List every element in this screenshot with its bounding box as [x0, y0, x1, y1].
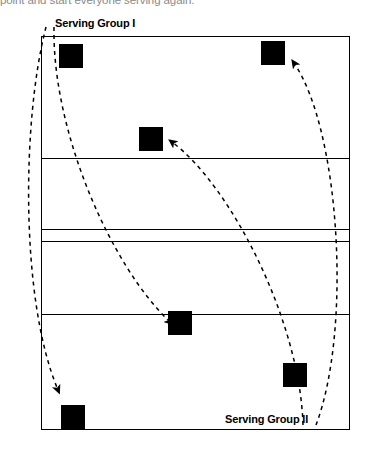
player-top-right — [261, 41, 285, 65]
player-upper-middle — [139, 127, 163, 151]
caption-text: point and start everyone serving again. — [0, 0, 300, 9]
court-line-2 — [42, 229, 349, 230]
player-bottom-left — [61, 405, 85, 429]
player-top-left — [59, 44, 83, 68]
court-line-1 — [42, 158, 349, 159]
player-lower-middle — [168, 311, 192, 335]
court-line-4 — [42, 314, 349, 315]
court-line-3 — [42, 241, 349, 242]
truncated-caption: point and start everyone serving again. — [0, 0, 300, 9]
serving-group-2-label: Serving Group II — [225, 413, 308, 425]
diagram-canvas: point and start everyone serving again. … — [0, 0, 368, 455]
player-bottom-right — [283, 363, 307, 387]
serving-group-1-label: Serving Group I — [55, 17, 135, 29]
